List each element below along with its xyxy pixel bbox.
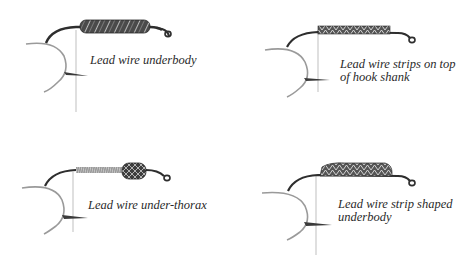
caption-strips-on-top-line1: Lead wire strips on top	[340, 57, 456, 71]
caption-underbody: Lead wire underbody	[90, 53, 196, 67]
caption-strips-on-top-line2: of hook shank	[340, 70, 409, 84]
fly-tying-lead-wire-diagram: Lead wire underbody Lead wire strips on …	[0, 0, 463, 271]
caption-strip-shaped-line1: Lead wire strip shaped	[338, 197, 452, 211]
caption-under-thorax: Lead wire under-thorax	[88, 198, 207, 212]
caption-strip-shaped-line2: underbody	[338, 210, 391, 224]
hook-illustrations	[0, 0, 463, 271]
